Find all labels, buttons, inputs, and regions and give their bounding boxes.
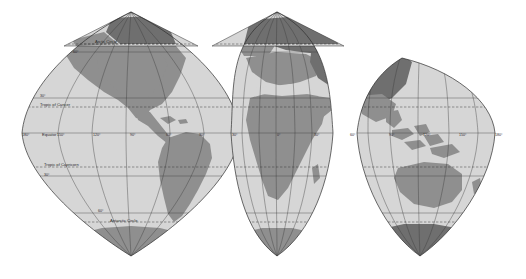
interrupted-world-map-figure: Arctic Circle 60° 30° Tropic of Cancer E… xyxy=(0,0,526,279)
meridian-label: 90° xyxy=(130,133,136,137)
meridian-label: 30° xyxy=(199,133,205,137)
meridian-label: 180° xyxy=(495,133,503,137)
lat-30n-label: 30° xyxy=(40,94,46,98)
meridian-label: 90° xyxy=(389,133,395,137)
meridian-label: 120° xyxy=(93,133,101,137)
lat-60n-label: 60° xyxy=(73,50,79,54)
arctic-circle-label: Arctic Circle xyxy=(95,39,118,44)
meridian-label: 180° xyxy=(22,133,30,137)
meridian-label: 60° xyxy=(350,133,356,137)
antarctic-circle-label: Antarctic Circle xyxy=(110,218,138,223)
meridian-label: 30° xyxy=(232,133,238,137)
equator-label: Equator xyxy=(42,132,57,137)
meridian-label: 150° xyxy=(57,133,65,137)
meridian-label: 30° xyxy=(314,133,320,137)
lat-60s-label: 60° xyxy=(98,209,104,213)
tropic-of-cancer-label: Tropic of Cancer xyxy=(40,102,71,107)
map-canvas: Arctic Circle 60° 30° Tropic of Cancer E… xyxy=(0,0,526,279)
lat-30s-label: 30° xyxy=(44,173,50,177)
tropic-of-capricorn-label: Tropic of Capricorn xyxy=(44,162,79,167)
meridian-label: 150° xyxy=(459,133,467,137)
meridian-label: 60° xyxy=(166,133,172,137)
meridian-label: 120° xyxy=(423,133,431,137)
meridian-label: 0° xyxy=(277,133,281,137)
